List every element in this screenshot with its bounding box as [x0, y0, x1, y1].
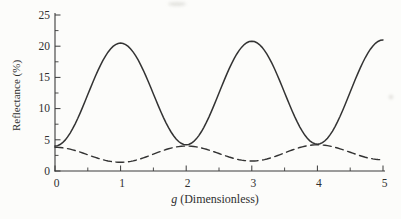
y-tick-label: 20: [39, 40, 51, 52]
x-tick-label: 3: [250, 177, 256, 189]
x-tick-label: 1: [119, 177, 125, 189]
x-axis-label-units: (Dimensionless): [177, 192, 259, 206]
y-tick-label: 25: [39, 9, 51, 21]
scan-artifact: [389, 95, 393, 99]
y-tick-label: 0: [44, 165, 50, 177]
x-tick-label: 4: [316, 177, 322, 189]
y-tick-label: 10: [39, 102, 51, 114]
scan-artifact: [168, 2, 186, 6]
reflectance-chart: 0123450510152025: [0, 0, 401, 219]
y-tick-label: 15: [39, 71, 51, 83]
y-axis-label: Reflectance (%): [10, 36, 25, 156]
reflectance-vs-g-figure: 0123450510152025 g (Dimensionless) Refle…: [0, 0, 401, 219]
solid-curve: [55, 40, 383, 146]
x-tick-label: 2: [185, 177, 191, 189]
x-tick-label: 5: [382, 177, 388, 189]
x-tick-label: 0: [54, 177, 60, 189]
y-tick-label: 5: [44, 134, 50, 146]
dashed-curve: [55, 145, 383, 162]
x-axis-label: g (Dimensionless): [115, 192, 315, 207]
plot-area: 0123450510152025: [39, 9, 388, 189]
